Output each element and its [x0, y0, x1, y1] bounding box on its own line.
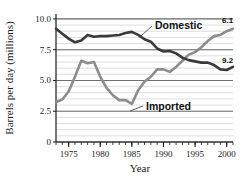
x-tick-label: 1990 — [154, 149, 173, 159]
y-tick-label: 5.0 — [40, 75, 52, 85]
x-tick-label: 1995 — [186, 149, 205, 159]
y-axis-title: Barrels per day (millions) — [3, 21, 16, 135]
endpoint-label-imported: 6.1 — [222, 16, 234, 25]
y-tick-label: 0 — [47, 137, 52, 147]
x-tick-label: 1975 — [60, 149, 79, 159]
y-tick-label: 10.0 — [35, 14, 51, 24]
y-tick-label: 2.5 — [40, 106, 52, 116]
series-label-imported: Imported — [146, 100, 191, 112]
x-tick-label: 1985 — [123, 149, 142, 159]
x-tick-label: 1980 — [91, 149, 110, 159]
x-tick-label: 2000 — [218, 149, 237, 159]
x-axis-title: Year — [130, 162, 151, 174]
chart-container: 02.55.07.510.0 197519801985199019952000 … — [0, 0, 241, 177]
oil-production-line-chart: 02.55.07.510.0 197519801985199019952000 … — [0, 0, 241, 177]
endpoint-label-domestic: 9.2 — [222, 56, 234, 65]
series-label-domestic: Domestic — [155, 19, 202, 31]
chart-background — [0, 0, 241, 177]
y-tick-label: 7.5 — [40, 45, 52, 55]
